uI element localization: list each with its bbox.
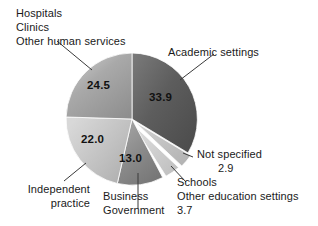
label-independent: Independent xyxy=(0,183,90,196)
label-other-human-services: Other human services xyxy=(16,35,126,48)
label-clinics: Clinics xyxy=(16,21,49,34)
label-practice: practice xyxy=(0,197,90,210)
value-human-services: 24.5 xyxy=(87,79,110,91)
leader-line-independent xyxy=(64,163,86,181)
value-not-specified: 2.9 xyxy=(218,162,234,175)
label-not-specified: Not specified xyxy=(197,148,262,161)
value-other-education-settings: 3.7 xyxy=(177,204,193,217)
value-independent-practice: 22.0 xyxy=(81,133,104,145)
value-business-government: 13.0 xyxy=(119,152,142,164)
label-hospitals: Hospitals xyxy=(16,7,62,20)
label-other-education-settings: Other education settings xyxy=(177,190,299,203)
label-government: Government xyxy=(103,204,165,217)
label-schools: Schools xyxy=(177,176,217,189)
value-academic-settings: 33.9 xyxy=(149,91,172,103)
label-academic-settings: Academic settings xyxy=(168,46,259,59)
pie-chart-figure: Hospitals Clinics Other human services A… xyxy=(0,0,318,226)
label-business: Business xyxy=(103,190,148,203)
